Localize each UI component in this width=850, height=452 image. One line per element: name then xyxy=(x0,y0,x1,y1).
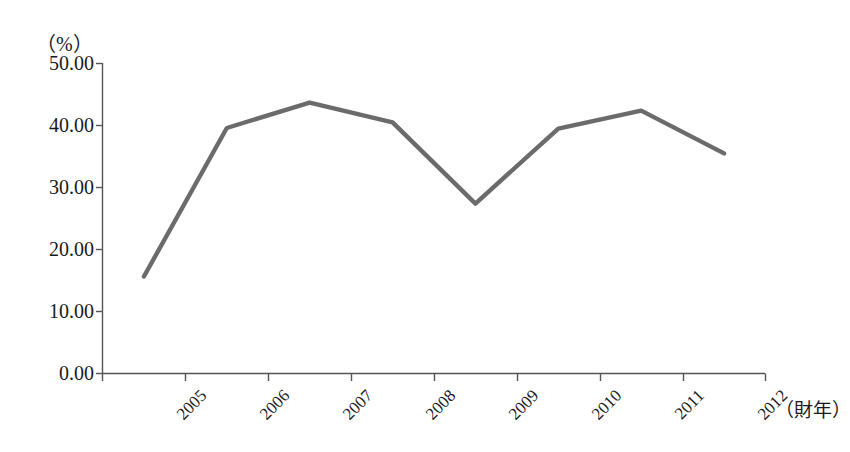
line-chart: （%） 0.00 10.00 20.00 30.00 40.00 50.00 xyxy=(0,0,850,452)
y-axis-ticks xyxy=(96,64,102,374)
data-series-line xyxy=(144,103,724,277)
plot-area xyxy=(0,0,850,452)
x-axis-title: （財年） xyxy=(775,395,850,422)
x-axis-ticks xyxy=(103,374,766,382)
